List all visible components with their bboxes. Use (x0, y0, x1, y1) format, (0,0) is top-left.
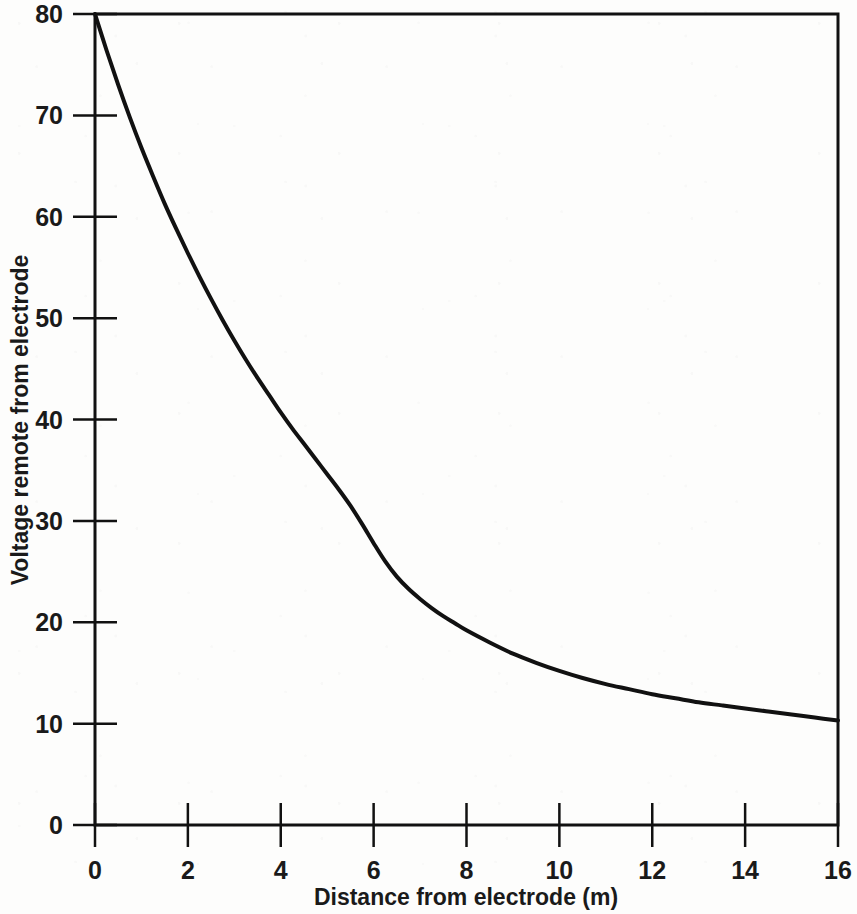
x-tick-label-16: 16 (824, 856, 852, 884)
x-tick-label-14: 14 (731, 856, 759, 884)
line-chart: 01020304050607080 0246810121416 Distance… (0, 0, 857, 914)
y-tick-label-20: 20 (35, 608, 63, 636)
y-axis-title: Voltage remote from electrode (7, 255, 33, 586)
x-tick-label-6: 6 (367, 856, 381, 884)
y-tick-label-10: 10 (35, 710, 63, 738)
x-tick-label-12: 12 (638, 856, 666, 884)
y-tick-label-40: 40 (35, 406, 63, 434)
x-tick-label-10: 10 (545, 856, 573, 884)
y-tick-label-60: 60 (35, 203, 63, 231)
y-tick-label-0: 0 (49, 811, 63, 839)
x-axis-title: Distance from electrode (m) (314, 884, 618, 910)
chart-figure: 01020304050607080 0246810121416 Distance… (0, 0, 857, 914)
y-tick-label-50: 50 (35, 304, 63, 332)
plot-frame (95, 14, 838, 825)
y-tick-label-80: 80 (35, 0, 63, 28)
y-tick-label-30: 30 (35, 507, 63, 535)
y-axis-tick-labels: 01020304050607080 (35, 0, 63, 839)
x-tick-label-4: 4 (274, 856, 288, 884)
x-axis-tick-labels: 0246810121416 (88, 856, 852, 884)
x-tick-label-2: 2 (181, 856, 195, 884)
x-tick-label-0: 0 (88, 856, 102, 884)
y-tick-label-70: 70 (35, 101, 63, 129)
voltage-decay-curve (95, 14, 838, 721)
x-tick-label-8: 8 (460, 856, 474, 884)
